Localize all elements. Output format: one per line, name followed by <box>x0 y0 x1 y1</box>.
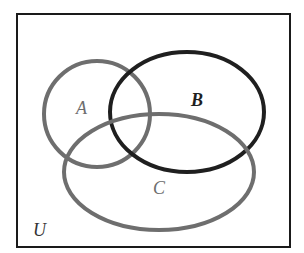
set-a-label: A <box>75 98 88 118</box>
universe-label: U <box>33 220 47 240</box>
set-b-ellipse <box>110 52 264 172</box>
set-b-label: B <box>190 90 203 110</box>
set-c-ellipse <box>64 114 254 230</box>
set-c-label: C <box>153 178 166 198</box>
venn-diagram: A B C U <box>0 0 304 253</box>
universe-rectangle <box>17 14 290 247</box>
